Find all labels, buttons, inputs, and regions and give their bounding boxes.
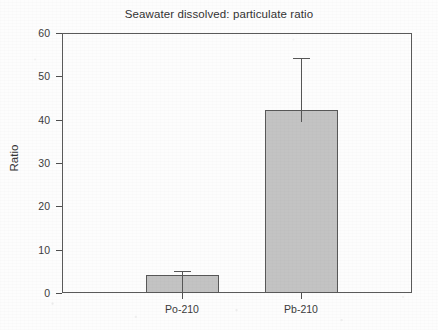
y-tick-label-50: 50: [10, 70, 50, 82]
y-tick-0: [56, 293, 62, 294]
y-tick-label-0: 0: [10, 287, 50, 299]
chart-figure: Seawater dissolved: particulate ratio Ra…: [0, 0, 438, 330]
x-tick-label-pb-210: Pb-210: [256, 303, 346, 315]
x-tick-pb-210: [301, 293, 302, 299]
y-tick-label-40: 40: [10, 114, 50, 126]
x-tick-label-po-210: Po-210: [137, 303, 227, 315]
y-tick-label-20: 20: [10, 200, 50, 212]
chart-title: Seawater dissolved: particulate ratio: [0, 8, 438, 20]
y-tick-label-30: 30: [10, 157, 50, 169]
error-bar-cap-pb-210: [293, 58, 310, 59]
error-bar-cap-po-210: [174, 271, 191, 272]
x-tick-po-210: [182, 293, 183, 299]
y-tick-label-60: 60: [10, 27, 50, 39]
error-bar-stem-pb-210: [301, 58, 302, 122]
error-bar-stem-po-210: [182, 271, 183, 294]
plot-area: [62, 33, 412, 293]
bar-pb-210[interactable]: [265, 110, 338, 293]
y-tick-label-10: 10: [10, 244, 50, 256]
